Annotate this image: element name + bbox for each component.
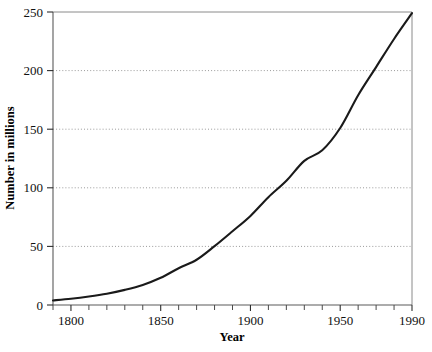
- y-tick-label-100: 100: [24, 180, 44, 195]
- line-chart: 18001850190019501990 050100150200250 Yea…: [0, 0, 432, 352]
- y-tick-label-200: 200: [24, 63, 44, 78]
- x-axis-title: Year: [220, 330, 245, 344]
- x-tick-label-1900: 1900: [237, 313, 263, 328]
- y-tick-label-150: 150: [24, 122, 44, 137]
- x-tick-label-1990: 1990: [399, 313, 425, 328]
- y-tick-label-0: 0: [37, 298, 44, 313]
- x-tick-label-1950: 1950: [327, 313, 353, 328]
- x-tick-label-1800: 1800: [58, 313, 84, 328]
- y-axis-title: Number in millions: [3, 106, 17, 209]
- x-tick-label-1850: 1850: [148, 313, 174, 328]
- y-tick-label-50: 50: [30, 239, 43, 254]
- chart-figure: 18001850190019501990 050100150200250 Yea…: [0, 0, 432, 352]
- y-tick-label-250: 250: [24, 5, 44, 20]
